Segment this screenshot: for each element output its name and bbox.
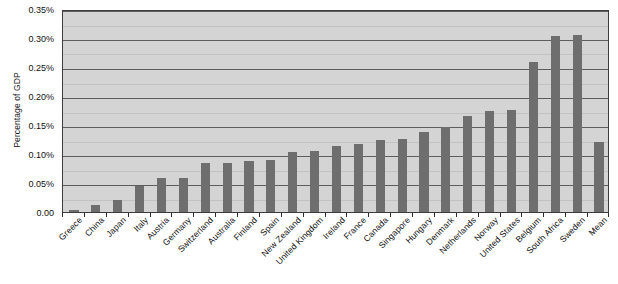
x-axis-tick-label: Mean [587,215,610,238]
bar [376,140,385,212]
plot-area [62,10,609,213]
bar [179,178,188,212]
bar [485,111,494,212]
y-axis-tick-label: 0.20% [28,92,54,102]
bar [529,62,538,212]
x-axis-tick-label: Finland [232,215,259,242]
bar [288,152,297,212]
y-axis-tick-label: 0.35% [28,5,54,15]
x-axis-tick-label: China [83,215,106,238]
bar [594,142,603,212]
x-axis-tick-label: Japan [104,215,128,239]
y-axis-tick-label: 0.10% [28,150,54,160]
x-axis-tick-label: Greece [57,215,84,242]
bar [354,144,363,212]
bar [573,35,582,212]
bar [157,178,166,212]
bar [310,151,319,212]
bar-chart: Percentage of GDP 0.000.05%0.10%0.15%0.2… [0,0,618,284]
y-axis-tick-label: 0.30% [28,34,54,44]
bars-layer [63,11,608,212]
bar [551,36,560,212]
bar [69,210,78,212]
bar [332,146,341,212]
bar [398,139,407,212]
bar [201,163,210,212]
bar [441,127,450,212]
bar [91,205,100,212]
y-axis-tick-label: 0.15% [28,121,54,131]
x-axis-tick-labels: GreeceChinaJapanItalyAustriaGermanySwitz… [0,215,618,284]
bar [419,132,428,212]
bar [223,163,232,212]
bar [507,110,516,212]
y-axis-tick-label: 0.05% [28,179,54,189]
bar [463,116,472,212]
bar [113,200,122,212]
x-axis-tick-label: Ireland [320,215,346,241]
bar [244,161,253,212]
y-axis-tick-label: 0.25% [28,63,54,73]
bar [266,160,275,212]
bar [135,186,144,212]
